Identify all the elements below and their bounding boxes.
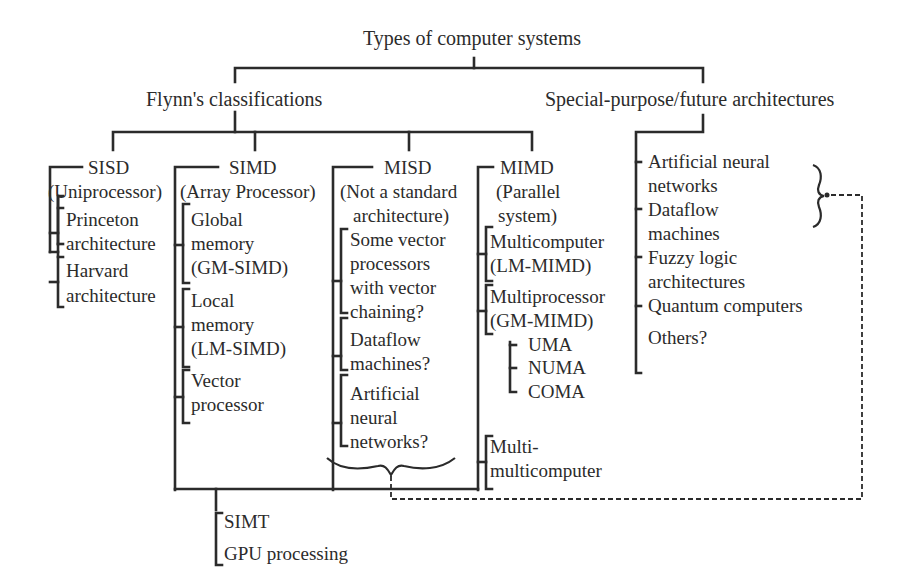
simd-item-global-1: Global xyxy=(191,208,243,232)
misd-item-vector-4: chaining? xyxy=(350,300,424,324)
misd-item-ann-2: neural xyxy=(350,406,397,430)
sisd-title: SISD xyxy=(88,156,129,180)
misd-item-ann-1: Artificial xyxy=(350,382,420,406)
mimd-subtitle-2: system) xyxy=(498,204,557,228)
special-item-dataflow-2: machines xyxy=(648,222,720,246)
simd-item-local-1: Local xyxy=(191,289,234,313)
misd-item-vector-2: processors xyxy=(350,252,430,276)
simd-item-local-3: (LM-SIMD) xyxy=(191,337,286,361)
misd-title: MISD xyxy=(384,156,432,180)
mimd-item-multiprocessor-2: (GM-MIMD) xyxy=(490,309,593,333)
special-label: Special-purpose/future architectures xyxy=(545,87,834,111)
mimd-item-multicomputer-2: (LM-MIMD) xyxy=(490,254,591,278)
sisd-item-princeton-2: architecture xyxy=(66,232,156,256)
root-title: Types of computer systems xyxy=(363,26,581,50)
mimd-item-multicomputer-1: Multicomputer xyxy=(490,230,604,254)
mimd-type-uma: UMA xyxy=(528,333,572,357)
special-item-ann-2: networks xyxy=(648,174,718,198)
misd-item-ann-3: networks? xyxy=(350,430,428,454)
special-item-fuzzy-1: Fuzzy logic xyxy=(648,246,737,270)
gpu-processing-label: GPU processing xyxy=(224,542,348,566)
special-item-others: Others? xyxy=(648,326,707,350)
simd-item-global-2: memory xyxy=(191,232,254,256)
mimd-type-numa: NUMA xyxy=(528,356,586,380)
simd-subtitle: (Array Processor) xyxy=(180,180,316,204)
mimd-title: MIMD xyxy=(500,156,554,180)
simt-label: SIMT xyxy=(224,510,269,534)
misd-subtitle-1: (Not a standard xyxy=(340,180,457,204)
mimd-subtitle-1: (Parallel xyxy=(496,180,560,204)
simd-item-vector-2: processor xyxy=(191,393,264,417)
misd-subtitle-2: architecture) xyxy=(353,204,449,228)
mimd-item-multimulti-1: Multi- xyxy=(490,435,539,459)
sisd-item-princeton-1: Princeton xyxy=(66,208,139,232)
simd-item-local-2: memory xyxy=(191,313,254,337)
mimd-item-multiprocessor-1: Multiprocessor xyxy=(490,285,605,309)
simd-title: SIMD xyxy=(229,156,277,180)
sisd-subtitle: (Uniprocessor) xyxy=(48,180,162,204)
special-item-quantum: Quantum computers xyxy=(648,294,803,318)
misd-item-dataflow-2: machines? xyxy=(350,352,430,376)
sisd-item-harvard-1: Harvard xyxy=(66,259,128,283)
misd-item-dataflow-1: Dataflow xyxy=(350,328,421,352)
special-item-ann-1: Artificial neural xyxy=(648,150,770,174)
special-item-fuzzy-2: architectures xyxy=(648,270,745,294)
misd-item-vector-3: with vector xyxy=(350,276,436,300)
mimd-type-coma: COMA xyxy=(528,380,585,404)
flynn-label: Flynn's classifications xyxy=(146,87,322,111)
mimd-item-multimulti-2: multicomputer xyxy=(490,459,602,483)
simd-item-vector-1: Vector xyxy=(191,369,241,393)
simd-item-global-3: (GM-SIMD) xyxy=(191,256,288,280)
special-item-dataflow-1: Dataflow xyxy=(648,198,719,222)
misd-item-vector-1: Some vector xyxy=(350,228,446,252)
sisd-item-harvard-2: architecture xyxy=(66,284,156,308)
